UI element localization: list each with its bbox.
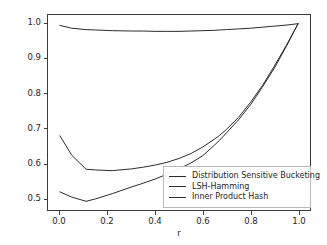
legend-item[interactable]: Inner Product Hash <box>169 192 305 203</box>
x-tick-label: 0.8 <box>231 217 271 226</box>
x-tick-label: 0.6 <box>183 217 223 226</box>
y-tick-label: 1.0 <box>27 18 41 27</box>
y-tick-label: 0.7 <box>27 124 41 133</box>
legend-item-label: LSH-Hamming <box>192 182 249 193</box>
chart-legend: Distribution Sensitive Bucketing LSH-Ham… <box>163 166 311 208</box>
legend-line-icon <box>169 176 186 177</box>
x-tick-mark <box>299 211 300 215</box>
y-tick-label: 0.5 <box>27 194 41 203</box>
legend-line-icon <box>169 186 186 187</box>
legend-item[interactable]: LSH-Hamming <box>169 182 305 193</box>
y-tick-label: 0.8 <box>27 89 41 98</box>
x-tick-mark <box>59 211 60 215</box>
x-tick-mark <box>155 211 156 215</box>
x-tick-mark <box>107 211 108 215</box>
series-line <box>60 24 298 171</box>
y-tick-label: 0.6 <box>27 159 41 168</box>
x-tick-label: 0.2 <box>87 217 127 226</box>
legend-item-label: Distribution Sensitive Bucketing <box>192 171 320 182</box>
series-line <box>60 24 298 32</box>
y-tick-label: 0.9 <box>27 53 41 62</box>
legend-line-icon <box>169 197 186 198</box>
x-tick-mark <box>251 211 252 215</box>
x-tick-label: 0.4 <box>135 217 175 226</box>
x-tick-mark <box>203 211 204 215</box>
chart-figure: Theoretical Query Complexity 0.50.60.70.… <box>0 0 327 245</box>
legend-item[interactable]: Distribution Sensitive Bucketing <box>169 171 305 182</box>
x-tick-label: 0.0 <box>39 217 79 226</box>
x-tick-label: 1.0 <box>279 217 319 226</box>
x-axis-label: r <box>47 228 311 238</box>
legend-item-label: Inner Product Hash <box>192 192 268 203</box>
